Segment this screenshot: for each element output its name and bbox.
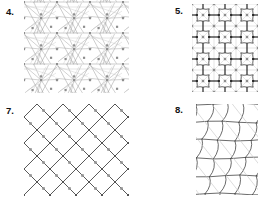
figure-label-8: 8.: [175, 105, 183, 115]
figure-drawing-8: [196, 104, 258, 195]
figure-drawing-4: [24, 0, 129, 93]
figure-panel-7: 7.: [0, 99, 132, 197]
figure-label-7: 7.: [6, 106, 14, 116]
worksheet-sheet: 4. 5. 7. 8.: [0, 0, 264, 197]
figure-panel-5: 5.: [132, 0, 264, 99]
figure-panel-4: 4.: [0, 0, 132, 99]
figure-drawing-5: [192, 4, 258, 92]
figure-drawing-7: [24, 104, 129, 196]
figure-label-5: 5.: [175, 6, 183, 16]
figure-label-4: 4.: [6, 7, 14, 17]
figure-panel-8: 8.: [132, 99, 264, 197]
